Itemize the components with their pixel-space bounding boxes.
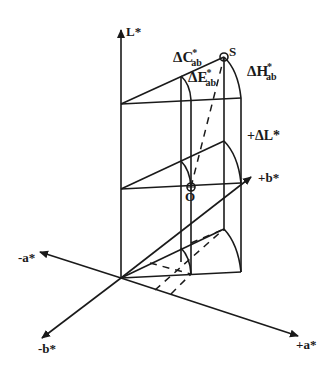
plus-a-axis	[121, 278, 298, 336]
delta-h-label: ΔH*ab	[247, 61, 277, 82]
bottom-plane-base	[121, 272, 241, 278]
minus-b-label: -b*	[38, 341, 56, 356]
point-o-label: O	[185, 189, 195, 204]
mid-plane-hue-arc	[224, 141, 241, 183]
minus-a-label: -a*	[18, 250, 35, 265]
delta-c-label: ΔC*ab	[173, 47, 202, 68]
top-plane-hue-arc	[224, 57, 241, 98]
bottom-plane-small-arc	[181, 248, 191, 274]
mid-plane-chroma-line	[121, 141, 224, 189]
delta-e-label: ΔE*ab	[188, 67, 216, 88]
minus-a-axis	[40, 252, 121, 278]
l-axis-label: L*	[126, 24, 141, 39]
dashed-proj-3	[155, 229, 224, 290]
dashed-proj-1	[150, 263, 191, 274]
point-s-label: S	[229, 44, 236, 59]
delta-l-label: +ΔL*	[247, 128, 280, 143]
dashed-proj-4	[171, 274, 191, 294]
plus-a-label: +a*	[296, 337, 316, 352]
dashed-proj-2	[191, 229, 224, 243]
cielab-diagram: L* -a* +a* -b* +b* S O ΔC*ab ΔE*ab ΔH*ab…	[0, 0, 330, 368]
plus-b-label: +b*	[258, 170, 279, 185]
minus-b-axis	[42, 278, 121, 338]
bottom-plane-hue-arc	[224, 229, 241, 272]
